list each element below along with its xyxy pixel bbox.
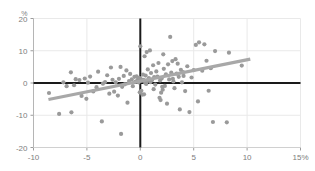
- scatter-point: [213, 49, 217, 53]
- scatter-point: [142, 54, 146, 58]
- scatter-point: [152, 87, 156, 91]
- scatter-point: [74, 77, 78, 81]
- x-tick-label: -10: [28, 153, 40, 162]
- scatter-chart-figure: -10-5051015% -20-1001020 %: [0, 0, 315, 171]
- scatter-point: [162, 67, 166, 71]
- scatter-point: [156, 61, 160, 65]
- scatter-point: [151, 63, 155, 67]
- scatter-point: [100, 119, 104, 123]
- scatter-point: [84, 97, 88, 101]
- scatter-point: [154, 69, 158, 73]
- scatter-point: [225, 120, 229, 124]
- scatter-point: [69, 110, 73, 114]
- scatter-point: [131, 84, 135, 88]
- scatter-point: [107, 92, 111, 96]
- scatter-point: [185, 64, 189, 68]
- scatter-point: [171, 77, 175, 81]
- scatter-point: [144, 82, 148, 86]
- scatter-point: [114, 80, 118, 84]
- scatter-point: [112, 90, 116, 94]
- x-tick-label: 15%: [292, 153, 308, 162]
- scatter-point: [65, 84, 69, 88]
- scatter-point: [153, 83, 157, 87]
- scatter-point: [168, 35, 172, 39]
- scatter-point: [118, 65, 122, 69]
- scatter-point: [96, 70, 100, 74]
- chart-background: [0, 0, 315, 171]
- scatter-point: [116, 93, 120, 97]
- scatter-point: [124, 68, 128, 72]
- scatter-point: [61, 80, 65, 84]
- chart-canvas: -10-5051015% -20-1001020 %: [0, 0, 315, 171]
- scatter-point: [160, 85, 164, 89]
- y-axis-unit-label: %: [21, 10, 27, 17]
- scatter-point: [177, 75, 181, 79]
- scatter-point: [128, 72, 132, 76]
- scatter-point: [146, 67, 150, 71]
- scatter-point: [180, 80, 184, 84]
- scatter-point: [165, 102, 169, 106]
- scatter-point: [161, 52, 165, 56]
- x-tick-label: 0: [138, 153, 143, 162]
- scatter-point: [148, 48, 152, 52]
- y-tick-label: -20: [16, 144, 28, 153]
- scatter-point: [47, 91, 51, 95]
- y-tick-label: -10: [16, 111, 28, 120]
- scatter-point: [202, 42, 206, 46]
- scatter-point: [125, 101, 129, 105]
- scatter-point: [77, 78, 81, 82]
- scatter-point: [173, 57, 177, 61]
- scatter-point: [227, 51, 231, 55]
- scatter-point: [57, 112, 61, 116]
- scatter-point: [181, 74, 185, 78]
- scatter-point: [211, 120, 215, 124]
- x-tick-label: 5: [191, 153, 196, 162]
- scatter-point: [105, 73, 109, 77]
- x-tick-label: -5: [83, 153, 91, 162]
- scatter-point: [240, 63, 244, 67]
- scatter-point: [158, 98, 162, 102]
- scatter-point: [197, 40, 201, 44]
- scatter-point: [109, 65, 113, 69]
- scatter-point: [119, 132, 123, 136]
- scatter-point: [166, 62, 170, 66]
- scatter-point: [69, 70, 73, 74]
- scatter-point: [72, 83, 76, 87]
- scatter-point: [83, 76, 87, 80]
- scatter-point: [88, 74, 92, 78]
- scatter-point: [204, 59, 208, 63]
- x-tick-label: 10: [243, 153, 252, 162]
- scatter-point: [172, 86, 176, 90]
- scatter-point: [122, 74, 126, 78]
- scatter-point: [103, 80, 107, 84]
- scatter-point: [207, 89, 211, 93]
- scatter-point: [183, 89, 187, 93]
- scatter-point: [176, 62, 180, 66]
- scatter-point: [86, 81, 90, 85]
- y-tick-label: 0: [23, 79, 28, 88]
- scatter-point: [138, 44, 142, 48]
- scatter-point: [187, 110, 191, 114]
- scatter-point: [167, 77, 171, 81]
- scatter-point: [117, 77, 121, 81]
- scatter-point: [189, 75, 193, 79]
- axis-unit-labels: %: [21, 10, 27, 17]
- scatter-point: [196, 99, 200, 103]
- scatter-point: [178, 107, 182, 111]
- scatter-point: [138, 90, 142, 94]
- scatter-point: [142, 92, 146, 96]
- y-tick-label: 10: [19, 47, 28, 56]
- scatter-point: [149, 71, 153, 75]
